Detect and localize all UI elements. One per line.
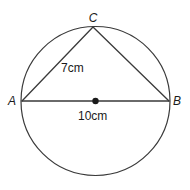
vertex-label-b: B xyxy=(173,94,181,108)
vertex-label-c: C xyxy=(89,11,98,25)
segment-cb xyxy=(93,27,169,101)
vertex-label-a: A xyxy=(7,94,16,108)
geometry-diagram: A B C 7cm 10cm xyxy=(0,0,190,190)
measurement-label-ab: 10cm xyxy=(78,109,107,123)
circle-center-dot xyxy=(92,98,98,104)
measurement-label-ac: 7cm xyxy=(61,61,84,75)
